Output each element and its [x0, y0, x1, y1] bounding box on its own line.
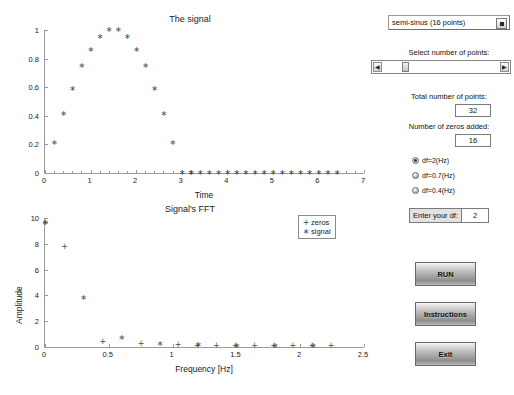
x-tick-label: 3: [179, 176, 183, 185]
fft-plot: Signal's FFT +++++++++++++∗∗∗∗∗∗∗∗ Frequ…: [0, 204, 380, 392]
signal-type-dropdown[interactable]: semi-sinus (16 points): [388, 15, 510, 30]
x-tick-minor: [355, 171, 356, 173]
total-points-label: Total number of points:: [388, 92, 510, 101]
x-tick-minor: [163, 171, 164, 173]
data-point-zeros: ∗: [325, 169, 331, 177]
data-point-signal: ∗: [69, 85, 75, 93]
radio-df-2[interactable]: df=2(Hz): [412, 157, 449, 164]
y-tick: [45, 30, 48, 31]
zeros-added-field[interactable]: 16: [455, 134, 491, 147]
x-tick-minor: [154, 171, 155, 173]
radio-df-2-label: df=2(Hz): [422, 157, 449, 164]
y-tick: [45, 321, 48, 322]
slider-left-arrow-icon[interactable]: ◀: [373, 62, 382, 72]
slider-thumb[interactable]: [402, 62, 409, 72]
x-tick-label: 0.5: [103, 350, 113, 359]
signal-plot-xlabel: Time: [195, 190, 214, 200]
data-point-zeros: ∗: [306, 169, 312, 177]
x-tick-minor: [54, 171, 55, 173]
fft-demo-window: The signal ∗∗∗∗∗∗∗∗∗∗∗∗∗∗∗∗∗∗∗∗∗∗∗∗∗∗∗∗∗…: [0, 0, 514, 395]
x-tick: [109, 344, 110, 347]
x-tick-label: 7: [361, 176, 365, 185]
x-tick: [300, 344, 301, 347]
data-point-zeros: ∗: [279, 169, 285, 177]
data-point-signal: ∗: [115, 26, 121, 34]
fft-plot-legend: +zeros∗signal: [298, 215, 336, 239]
x-tick-minor: [346, 171, 347, 173]
data-point-zeros: +: [290, 342, 296, 350]
x-tick-label: 4: [224, 176, 228, 185]
x-tick-minor: [173, 171, 174, 173]
x-tick-label: 2: [297, 350, 301, 359]
data-point-zeros: +: [251, 342, 257, 350]
y-tick-label: 0.6: [0, 83, 39, 92]
data-point-signal: ∗: [195, 341, 201, 349]
y-tick: [45, 87, 48, 88]
total-points-field[interactable]: 32: [455, 104, 491, 117]
radio-df-04-label: df=0.4(Hz): [422, 187, 455, 194]
points-slider[interactable]: ◀ ▶: [371, 60, 511, 74]
chevron-down-icon[interactable]: [496, 18, 507, 29]
y-tick-label: 0: [0, 343, 39, 352]
y-tick: [45, 144, 48, 145]
y-tick: [45, 173, 48, 174]
data-point-zeros: +: [175, 341, 181, 349]
x-tick-label: 6: [315, 176, 319, 185]
run-button[interactable]: RUN: [415, 262, 476, 286]
slider-right-arrow-icon[interactable]: ▶: [500, 62, 509, 72]
x-tick-minor: [118, 171, 119, 173]
y-tick: [45, 116, 48, 117]
legend-marker-icon: +: [301, 218, 311, 227]
data-point-zeros: +: [61, 243, 67, 251]
legend-marker-icon: ∗: [301, 227, 311, 236]
legend-item: ∗signal: [301, 227, 331, 236]
x-tick-minor: [72, 171, 73, 173]
data-point-zeros: ∗: [188, 169, 194, 177]
x-tick-minor: [127, 171, 128, 173]
radio-dot-icon: [412, 172, 419, 179]
data-point-signal: ∗: [160, 110, 166, 118]
data-point-signal: ∗: [51, 139, 57, 147]
data-point-signal: ∗: [97, 33, 103, 41]
zeros-added-label: Number of zeros added:: [388, 122, 510, 131]
data-point-signal: ∗: [80, 294, 86, 302]
signal-plot-axes: ∗∗∗∗∗∗∗∗∗∗∗∗∗∗∗∗∗∗∗∗∗∗∗∗∗∗∗∗∗∗∗∗∗: [44, 30, 364, 174]
data-point-signal: ∗: [151, 85, 157, 93]
x-tick: [91, 170, 92, 173]
legend-item: +zeros: [301, 218, 331, 227]
radio-dot-icon: [412, 157, 419, 164]
legend-label: zeros: [311, 218, 329, 227]
x-tick: [364, 344, 365, 347]
y-tick: [45, 59, 48, 60]
y-tick-label: 8: [0, 239, 39, 248]
exit-button[interactable]: Exit: [415, 342, 476, 366]
radio-df-04[interactable]: df=0.4(Hz): [412, 187, 455, 194]
data-point-signal: ∗: [60, 110, 66, 118]
data-point-signal: ∗: [78, 62, 84, 70]
radio-df-07[interactable]: df=0.7(Hz): [412, 172, 455, 179]
x-tick-label: 0: [42, 350, 46, 359]
data-point-signal: ∗: [233, 342, 239, 350]
data-point-zeros: +: [328, 342, 334, 350]
data-point-zeros: ∗: [252, 169, 258, 177]
signal-plot-title: The signal: [0, 14, 380, 24]
instructions-button[interactable]: Instructions: [415, 302, 476, 326]
y-tick: [45, 295, 48, 296]
data-point-zeros: +: [213, 342, 219, 350]
y-tick: [45, 347, 48, 348]
y-tick: [45, 244, 48, 245]
df-input-group[interactable]: Enter your df: 2: [409, 208, 489, 223]
points-slider-label: Select number of points:: [388, 48, 510, 57]
radio-dot-icon: [412, 187, 419, 194]
data-point-zeros: ∗: [288, 169, 294, 177]
x-tick: [136, 170, 137, 173]
data-point-signal: ∗: [272, 342, 278, 350]
x-tick-label: 1.5: [230, 350, 240, 359]
df-input-field[interactable]: 2: [462, 209, 488, 222]
data-point-signal: ∗: [157, 340, 163, 348]
data-point-signal: ∗: [119, 334, 125, 342]
data-point-signal: ∗: [142, 62, 148, 70]
data-point-zeros: ∗: [233, 169, 239, 177]
x-tick-label: 0: [42, 176, 46, 185]
y-tick-label: 10: [0, 214, 39, 223]
